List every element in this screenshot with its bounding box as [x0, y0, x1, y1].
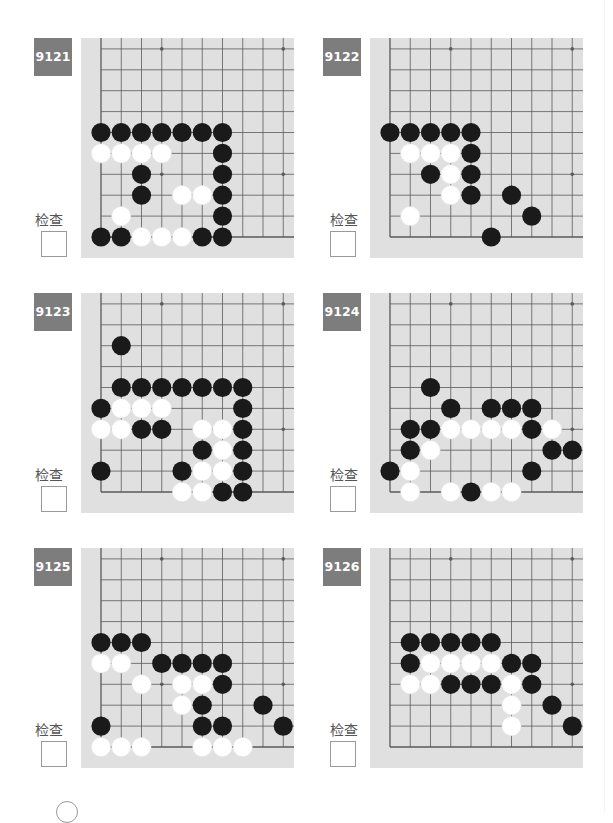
star-point-icon	[570, 428, 574, 432]
page-circle-mark-icon	[56, 801, 78, 823]
black-stone-icon	[461, 123, 480, 142]
black-stone-icon	[213, 654, 232, 673]
black-stone-icon	[274, 717, 293, 736]
white-stone-icon	[421, 144, 440, 163]
problem-number-badge: 9122	[323, 38, 361, 76]
white-stone-icon	[112, 144, 131, 163]
white-stone-icon	[401, 482, 420, 501]
check-checkbox[interactable]	[41, 741, 67, 767]
white-stone-icon	[441, 654, 460, 673]
black-stone-icon	[193, 123, 212, 142]
black-stone-icon	[213, 123, 232, 142]
black-stone-icon	[461, 186, 480, 205]
black-stone-icon	[482, 227, 501, 246]
white-stone-icon	[112, 207, 131, 226]
problem-9124: 9124 检查	[323, 293, 588, 515]
white-stone-icon	[502, 420, 521, 439]
black-stone-icon	[152, 654, 171, 673]
star-point-icon	[160, 683, 164, 687]
black-stone-icon	[172, 123, 191, 142]
black-stone-icon	[461, 482, 480, 501]
black-stone-icon	[441, 675, 460, 694]
black-stone-icon	[441, 399, 460, 418]
star-point-icon	[281, 683, 285, 687]
black-stone-icon	[213, 378, 232, 397]
black-stone-icon	[441, 123, 460, 142]
star-point-icon	[281, 173, 285, 177]
black-stone-icon	[112, 123, 131, 142]
go-board-diagram	[81, 548, 294, 768]
black-stone-icon	[441, 633, 460, 652]
white-stone-icon	[193, 675, 212, 694]
black-stone-icon	[461, 675, 480, 694]
black-stone-icon	[380, 123, 399, 142]
white-stone-icon	[213, 441, 232, 460]
white-stone-icon	[502, 717, 521, 736]
black-stone-icon	[421, 123, 440, 142]
black-stone-icon	[253, 696, 272, 715]
check-label: 检查	[330, 464, 370, 484]
star-point-icon	[570, 173, 574, 177]
black-stone-icon	[542, 696, 561, 715]
check-label: 检查	[35, 464, 75, 484]
white-stone-icon	[193, 482, 212, 501]
star-point-icon	[449, 557, 453, 561]
star-point-icon	[570, 683, 574, 687]
black-stone-icon	[132, 123, 151, 142]
white-stone-icon	[421, 654, 440, 673]
check-checkbox[interactable]	[330, 486, 356, 512]
black-stone-icon	[233, 399, 252, 418]
black-stone-icon	[401, 654, 420, 673]
star-point-icon	[160, 302, 164, 306]
black-stone-icon	[152, 420, 171, 439]
check-checkbox[interactable]	[41, 486, 67, 512]
black-stone-icon	[213, 207, 232, 226]
black-stone-icon	[233, 462, 252, 481]
white-stone-icon	[401, 144, 420, 163]
black-stone-icon	[482, 399, 501, 418]
check-checkbox[interactable]	[330, 741, 356, 767]
black-stone-icon	[91, 123, 110, 142]
white-stone-icon	[152, 227, 171, 246]
black-stone-icon	[91, 399, 110, 418]
black-stone-icon	[522, 207, 541, 226]
white-stone-icon	[112, 399, 131, 418]
black-stone-icon	[193, 717, 212, 736]
white-stone-icon	[152, 144, 171, 163]
black-stone-icon	[421, 378, 440, 397]
white-stone-icon	[112, 420, 131, 439]
black-stone-icon	[132, 186, 151, 205]
white-stone-icon	[91, 654, 110, 673]
black-stone-icon	[213, 144, 232, 163]
black-stone-icon	[112, 336, 131, 355]
black-stone-icon	[132, 633, 151, 652]
black-stone-icon	[502, 399, 521, 418]
black-stone-icon	[193, 654, 212, 673]
white-stone-icon	[502, 675, 521, 694]
white-stone-icon	[172, 227, 191, 246]
black-stone-icon	[233, 441, 252, 460]
white-stone-icon	[132, 399, 151, 418]
black-stone-icon	[380, 462, 399, 481]
star-point-icon	[281, 428, 285, 432]
black-stone-icon	[132, 420, 151, 439]
check-label: 检查	[35, 209, 75, 229]
black-stone-icon	[213, 186, 232, 205]
black-stone-icon	[132, 378, 151, 397]
black-stone-icon	[421, 633, 440, 652]
check-checkbox[interactable]	[330, 231, 356, 257]
white-stone-icon	[193, 186, 212, 205]
star-point-icon	[160, 557, 164, 561]
white-stone-icon	[213, 420, 232, 439]
star-point-icon	[281, 47, 285, 51]
white-stone-icon	[132, 227, 151, 246]
white-stone-icon	[172, 186, 191, 205]
white-stone-icon	[421, 675, 440, 694]
black-stone-icon	[502, 186, 521, 205]
black-stone-icon	[233, 420, 252, 439]
black-stone-icon	[172, 378, 191, 397]
black-stone-icon	[233, 378, 252, 397]
black-stone-icon	[91, 633, 110, 652]
check-checkbox[interactable]	[41, 231, 67, 257]
black-stone-icon	[522, 654, 541, 673]
